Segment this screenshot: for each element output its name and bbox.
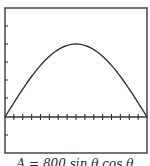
plot-frame (5, 8, 147, 153)
chart-plot (0, 0, 150, 156)
data-curve (5, 44, 147, 117)
chart-caption: A = 800 sin θ cos θ (0, 157, 150, 166)
